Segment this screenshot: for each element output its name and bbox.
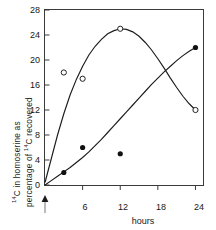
data-point-filled-12h	[118, 151, 123, 156]
series-markers-filled-circle	[61, 45, 198, 175]
y-axis-ticks	[45, 10, 50, 185]
chart-figure: 14C in homoserine as percentage of 14C r…	[0, 0, 216, 230]
data-point-filled-3h	[61, 170, 66, 175]
series-line-filled-circle	[45, 48, 195, 186]
data-point-open-12h	[118, 26, 123, 31]
data-point-open-24h	[193, 107, 198, 112]
data-point-open-6h	[80, 76, 85, 81]
plot-frame	[45, 10, 204, 186]
series-line-open-circle	[45, 29, 195, 183]
plot-area	[0, 0, 216, 230]
data-point-filled-24h	[193, 45, 198, 50]
origin-arrow-icon	[42, 195, 49, 213]
data-point-open-3h	[61, 70, 66, 75]
data-point-filled-6h	[80, 145, 85, 150]
